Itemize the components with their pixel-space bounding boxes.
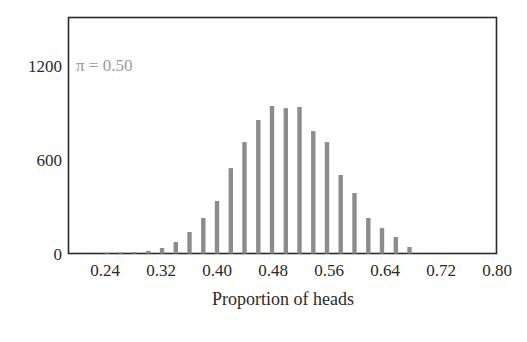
bar bbox=[187, 232, 191, 254]
bar bbox=[325, 142, 329, 254]
histogram-chart: 06001200 0.240.320.400.480.560.640.720.8… bbox=[0, 0, 527, 342]
bar bbox=[380, 228, 384, 254]
bar bbox=[284, 108, 288, 254]
bar bbox=[132, 252, 136, 254]
x-tick-label: 0.32 bbox=[146, 261, 176, 280]
x-tick-label: 0.56 bbox=[314, 261, 344, 280]
bar bbox=[339, 175, 343, 254]
bar bbox=[352, 193, 356, 254]
bar bbox=[256, 120, 260, 254]
bar bbox=[146, 251, 150, 254]
x-tick-label: 0.64 bbox=[370, 261, 400, 280]
bar bbox=[160, 248, 164, 254]
bar bbox=[366, 218, 370, 254]
y-tick-label: 600 bbox=[37, 151, 63, 170]
bar bbox=[270, 106, 274, 254]
bar bbox=[119, 253, 123, 254]
x-axis-ticks: 0.240.320.400.480.560.640.720.80 bbox=[90, 261, 512, 280]
bar bbox=[229, 168, 233, 254]
x-tick-label: 0.80 bbox=[482, 261, 512, 280]
x-tick-label: 0.72 bbox=[426, 261, 456, 280]
bars-group bbox=[105, 106, 412, 254]
bar bbox=[407, 247, 411, 254]
x-tick-label: 0.48 bbox=[258, 261, 288, 280]
bar bbox=[242, 142, 246, 254]
x-axis-label: Proportion of heads bbox=[212, 289, 354, 309]
x-tick-label: 0.24 bbox=[90, 261, 120, 280]
plot-frame bbox=[69, 18, 497, 254]
y-tick-label: 1200 bbox=[28, 57, 62, 76]
y-tick-label: 0 bbox=[54, 245, 63, 264]
bar bbox=[297, 107, 301, 254]
pi-annotation: π = 0.50 bbox=[76, 56, 132, 75]
bar bbox=[215, 201, 219, 254]
bar bbox=[174, 242, 178, 254]
x-tick-label: 0.40 bbox=[202, 261, 232, 280]
bar bbox=[394, 237, 398, 254]
y-axis-ticks: 06001200 bbox=[28, 57, 62, 264]
bar bbox=[311, 131, 315, 254]
bar bbox=[105, 253, 109, 254]
bar bbox=[201, 218, 205, 254]
